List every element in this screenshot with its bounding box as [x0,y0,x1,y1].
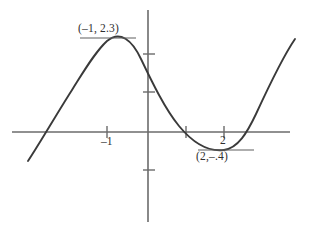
x-axis-tick-label-neg1: –1 [101,136,113,148]
function-curve [28,36,295,161]
coordinate-plane-plot [0,0,310,239]
local-minimum-label: (2,–.4) [196,151,228,163]
local-maximum-label: (–1, 2.3) [78,23,119,35]
x-axis-tick-label-2: 2 [220,135,226,147]
graph-figure: (–1, 2.3) (2,–.4) –1 2 [0,0,310,239]
